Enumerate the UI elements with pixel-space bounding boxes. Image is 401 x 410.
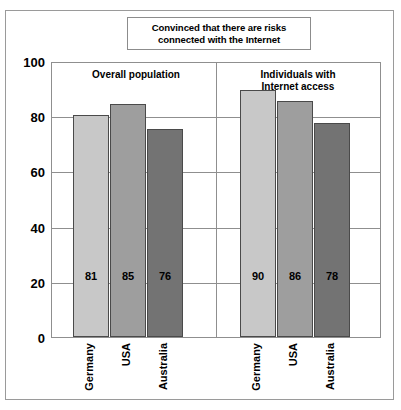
bar-value-overall-population-australia: 76 bbox=[148, 270, 182, 282]
bar-value-internet-access-usa: 86 bbox=[278, 270, 312, 282]
y-tick-40: 40 bbox=[3, 220, 45, 235]
y-tick-100: 100 bbox=[3, 55, 45, 70]
bar-overall-population-germany[interactable]: 81 bbox=[73, 115, 109, 337]
bar-overall-population-usa[interactable]: 85 bbox=[110, 104, 146, 337]
y-tick-60: 60 bbox=[3, 165, 45, 180]
bar-internet-access-germany[interactable]: 90 bbox=[240, 90, 276, 337]
x-tick-overall-population-australia: Australia bbox=[157, 343, 169, 390]
y-tick-80: 80 bbox=[3, 110, 45, 125]
plot-area: Overall population Individuals with Inte… bbox=[51, 62, 381, 338]
chart-figure: Convinced that there are risks connected… bbox=[0, 0, 401, 410]
bar-internet-access-australia[interactable]: 78 bbox=[314, 123, 350, 337]
x-tick-overall-population-germany: Germany bbox=[83, 343, 95, 391]
y-tick-0: 0 bbox=[3, 331, 45, 346]
x-tick-internet-access-germany: Germany bbox=[250, 343, 262, 391]
bar-value-internet-access-germany: 90 bbox=[241, 270, 275, 282]
x-tick-internet-access-australia: Australia bbox=[324, 343, 336, 390]
panel-divider bbox=[216, 63, 217, 337]
bar-value-overall-population-usa: 85 bbox=[111, 270, 145, 282]
bar-overall-population-australia[interactable]: 76 bbox=[147, 129, 183, 337]
chart-title: Convinced that there are risks connected… bbox=[152, 22, 287, 45]
panel-header-overall-population: Overall population bbox=[58, 69, 214, 81]
bar-internet-access-usa[interactable]: 86 bbox=[277, 101, 313, 337]
chart-title-box: Convinced that there are risks connected… bbox=[127, 17, 311, 50]
x-tick-internet-access-usa: USA bbox=[287, 343, 299, 366]
x-tick-overall-population-usa: USA bbox=[120, 343, 132, 366]
plot-inner: Overall population Individuals with Inte… bbox=[52, 63, 380, 337]
bar-value-overall-population-germany: 81 bbox=[74, 270, 108, 282]
panel-header-internet-access: Individuals with Internet access bbox=[220, 69, 376, 92]
bar-value-internet-access-australia: 78 bbox=[315, 270, 349, 282]
y-tick-20: 20 bbox=[3, 275, 45, 290]
y-axis: 100 80 60 40 20 0 bbox=[0, 62, 45, 338]
